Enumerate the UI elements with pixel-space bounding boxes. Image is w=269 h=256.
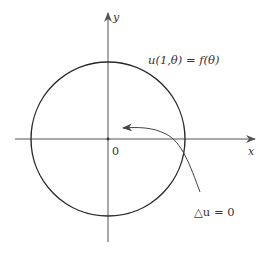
x-axis-label: x — [248, 145, 255, 158]
origin-label: 0 — [112, 145, 119, 158]
laplace-unit-disk-diagram: y 0 x u(1,θ) = f(θ) △u = 0 — [0, 0, 269, 256]
origin-point — [107, 138, 110, 141]
laplace-equation-label: △u = 0 — [194, 205, 235, 219]
boundary-condition-label: u(1,θ) = f(θ) — [148, 53, 219, 67]
curved-pointer-arrow — [123, 128, 200, 192]
y-axis-label: y — [112, 11, 120, 24]
